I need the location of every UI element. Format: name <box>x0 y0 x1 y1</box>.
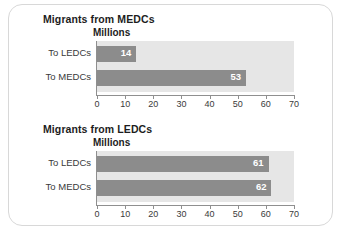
x-axis-tick-label: 70 <box>289 209 299 219</box>
bar-value-label: 61 <box>253 157 264 168</box>
x-axis-tick-label: 0 <box>94 209 99 219</box>
plot-area: 6162 <box>97 151 294 202</box>
y-axis-line <box>96 151 97 206</box>
chart-title: Migrants from MEDCs <box>43 13 155 25</box>
x-axis-tick-label: 30 <box>176 209 186 219</box>
x-axis-tick-label: 10 <box>120 209 130 219</box>
category-label: To LEDCs <box>31 157 91 168</box>
x-axis-tick-label: 10 <box>120 99 130 109</box>
chart-card: Migrants from MEDCsMillions1453To LEDCsT… <box>8 4 333 226</box>
plot-area: 1453 <box>97 41 294 92</box>
x-axis-tick-label: 30 <box>176 99 186 109</box>
x-axis-tick-label: 20 <box>148 209 158 219</box>
bar <box>97 180 271 196</box>
x-axis-tick-label: 70 <box>289 99 299 109</box>
x-axis-tick-label: 40 <box>205 99 215 109</box>
bar <box>97 156 269 172</box>
chart-title: Migrants from LEDCs <box>43 123 152 135</box>
x-axis-tick-label: 60 <box>261 209 271 219</box>
bar-value-label: 53 <box>231 71 242 82</box>
bar-value-label: 62 <box>256 181 267 192</box>
category-label: To MEDCs <box>31 71 91 82</box>
x-axis-tick-label: 60 <box>261 99 271 109</box>
chart-unit-label: Millions <box>93 27 130 38</box>
x-axis-tick-label: 50 <box>233 99 243 109</box>
bar-value-label: 14 <box>121 47 132 58</box>
x-axis-tick-label: 20 <box>148 99 158 109</box>
chart-unit-label: Millions <box>93 137 130 148</box>
y-axis-line <box>96 41 97 96</box>
x-axis-tick-label: 50 <box>233 209 243 219</box>
category-label: To MEDCs <box>31 181 91 192</box>
category-label: To LEDCs <box>31 47 91 58</box>
x-axis-tick-label: 40 <box>205 209 215 219</box>
x-axis-tick-label: 0 <box>94 99 99 109</box>
bar <box>97 70 246 86</box>
